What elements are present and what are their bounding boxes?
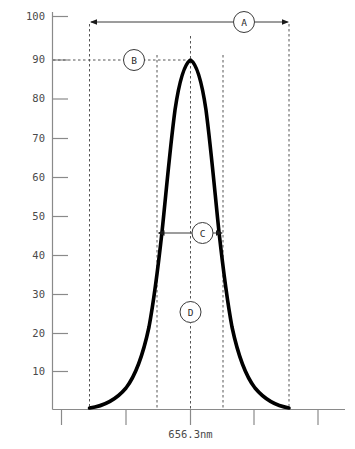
y-tick-label-40: 40 bbox=[32, 249, 45, 261]
y-tick-label-60: 60 bbox=[32, 171, 45, 183]
annotation-a-arrowhead-left bbox=[90, 19, 97, 25]
annotation-a-arrowhead-right bbox=[282, 19, 289, 25]
y-tick-label-90: 90 bbox=[32, 53, 45, 65]
callout-d-label: D bbox=[188, 307, 194, 318]
callout-a-label: A bbox=[241, 17, 247, 28]
chart-canvas: 100 90 80 70 60 50 40 30 20 10 656.3nm bbox=[0, 0, 355, 449]
x-axis-label: 656.3nm bbox=[168, 428, 212, 440]
spectral-curve bbox=[90, 60, 290, 408]
callout-b-label: B bbox=[131, 55, 137, 66]
annotation-a-arrow bbox=[90, 19, 289, 25]
callout-b: B bbox=[124, 50, 145, 71]
y-tick-label-30: 30 bbox=[32, 288, 45, 300]
y-tick-label-10: 10 bbox=[32, 365, 45, 377]
y-tick-label-100: 100 bbox=[26, 10, 45, 22]
callout-a: A bbox=[234, 12, 255, 33]
guide-line-group bbox=[90, 24, 290, 409]
x-tick-group bbox=[62, 410, 319, 426]
y-tick-label-20: 20 bbox=[32, 327, 45, 339]
callout-d: D bbox=[180, 302, 201, 323]
spectral-line-chart: 100 90 80 70 60 50 40 30 20 10 656.3nm bbox=[0, 0, 355, 449]
callout-c-label: C bbox=[200, 228, 206, 239]
y-tick-label-50: 50 bbox=[32, 210, 45, 222]
y-tick-group bbox=[53, 17, 69, 372]
y-tick-label-group: 100 90 80 70 60 50 40 30 20 10 bbox=[26, 10, 45, 377]
y-tick-label-70: 70 bbox=[32, 132, 45, 144]
y-tick-label-80: 80 bbox=[32, 92, 45, 104]
callout-c: C bbox=[192, 223, 213, 244]
